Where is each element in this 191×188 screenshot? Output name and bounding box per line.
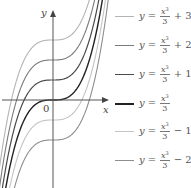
legend: y=x33+ 3y=x33+ 2y=x33+ 1y=x33y=x33− 1y=x… (113, 0, 191, 188)
curve-series-4 (0, 0, 111, 188)
legend-label: y=x33 (139, 92, 171, 113)
legend-label: y=x33− 1 (139, 120, 191, 141)
legend-label: y=x33+ 1 (139, 63, 191, 84)
legend-swatch (115, 45, 134, 46)
function-plot: x y 0 (0, 0, 112, 188)
x-axis-arrow-icon (102, 97, 109, 103)
legend-swatch (115, 16, 134, 17)
legend-label: y=x33+ 2 (139, 34, 191, 55)
curve-family (0, 0, 111, 188)
legend-swatch (115, 160, 134, 161)
curve-series-0 (0, 0, 111, 171)
legend-swatch (115, 74, 134, 75)
y-axis-arrow-icon (50, 10, 56, 17)
legend-label: y=x33+ 3 (139, 5, 191, 26)
legend-swatch (115, 131, 134, 132)
legend-label: y=x33− 2 (139, 149, 191, 170)
x-axis-label: x (103, 104, 109, 115)
y-axis-label: y (40, 7, 47, 18)
origin-label: 0 (43, 103, 49, 114)
legend-item: y=x33− 2 (113, 160, 191, 188)
legend-swatch (115, 103, 134, 105)
